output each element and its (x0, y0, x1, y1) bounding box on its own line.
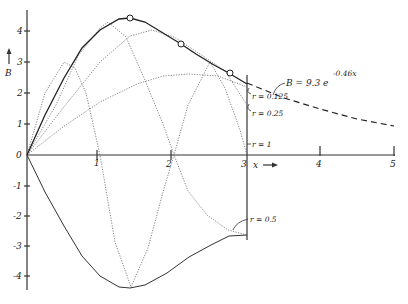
svg-text:x: x (253, 160, 258, 170)
y-tick-m2: -2 (13, 211, 22, 221)
chart: 1 2 3 4 5 4 3 2 1 0 -1 -2 -3 -4 B (0, 0, 408, 304)
label-r-0.25: r = 0.25 (252, 109, 284, 118)
y-tick-0: 0 (16, 150, 22, 160)
exponential-fit-curve (247, 83, 394, 126)
curve-r-0.25 (27, 30, 247, 155)
x-tick-1: 1 (94, 158, 100, 168)
y-tick-1: 1 (17, 119, 23, 129)
upper-envelope-curve (27, 18, 247, 155)
x-axis-title: x (253, 160, 278, 170)
arrow-up-icon (7, 48, 12, 54)
marker-point-1 (127, 15, 133, 21)
formula-label: B = 9.3 e (285, 78, 328, 88)
y-tick-3: 3 (17, 57, 23, 67)
x-tick-5: 5 (390, 159, 396, 169)
marker-point-2 (178, 41, 184, 47)
x-tick-2: 2 (165, 159, 172, 169)
label-r-0.5: r = 0.5 (250, 215, 277, 224)
label-r-1: r = 1 (252, 140, 271, 149)
curve-r-0.5 (27, 22, 247, 235)
svg-text:B: B (4, 68, 12, 78)
y-tick-m3: -3 (13, 241, 22, 251)
r05-leader (233, 219, 248, 230)
y-tick-4: 4 (16, 26, 23, 36)
r025-leader (248, 104, 251, 111)
r0125-leader (248, 88, 251, 94)
marker-point-3 (227, 70, 233, 76)
x-tick-3: 3 (241, 159, 247, 169)
y-axis-title: B (4, 48, 12, 78)
formula-exponent: -0.46x (333, 69, 357, 78)
x-tick-4: 4 (315, 159, 322, 169)
arrow-right-icon (272, 163, 278, 168)
lower-envelope-curve (27, 155, 247, 288)
y-tick-m1: -1 (13, 181, 22, 191)
y-tick-m4: -4 (13, 271, 22, 281)
label-r-0.125: r = 0.125 (252, 92, 288, 101)
y-tick-2: 2 (16, 88, 23, 98)
x-ticks (97, 146, 394, 160)
